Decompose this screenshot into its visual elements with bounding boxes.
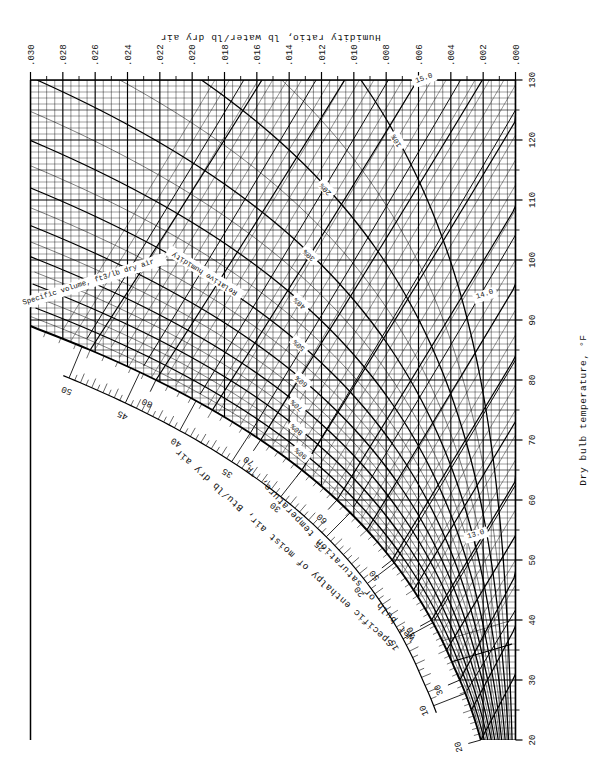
wet-bulb-axis-title: Wet bulb or saturation temperature, °F bbox=[243, 463, 416, 644]
enthalpy-tick-minor bbox=[91, 379, 95, 388]
wet-bulb-tick bbox=[313, 482, 317, 486]
wet-bulb-tick bbox=[101, 356, 103, 361]
wet-bulb-tick bbox=[150, 380, 156, 392]
enthalpy-tick-minor bbox=[290, 497, 296, 505]
enthalpy-hatch-group bbox=[43, 332, 480, 743]
wet-bulb-tick bbox=[378, 548, 382, 552]
wet-bulb-value-label: 30 bbox=[432, 683, 445, 697]
wet-bulb-tick bbox=[405, 590, 413, 595]
wet-bulb-tick bbox=[446, 662, 451, 664]
enthalpy-tick-minor bbox=[421, 673, 430, 677]
enthalpy-tick-minor bbox=[216, 447, 219, 452]
wet-bulb-value-label: 80 bbox=[140, 396, 154, 410]
enthalpy-line bbox=[208, 11, 442, 405]
drybulb-tick-label: 130 bbox=[527, 72, 537, 88]
wet-bulb-tick bbox=[207, 410, 211, 418]
enthalpy-line bbox=[200, 14, 426, 394]
wet-bulb-tick bbox=[381, 560, 391, 568]
wet-bulb-tick bbox=[274, 452, 277, 456]
enthalpy-line bbox=[264, 10, 515, 433]
humidity-tick-label: .008 bbox=[382, 44, 392, 66]
humidity-tick-label: .010 bbox=[350, 44, 360, 66]
wet-bulb-tick bbox=[470, 722, 475, 724]
drybulb-tick-label: 90 bbox=[527, 315, 537, 326]
enthalpy-tick-minor bbox=[108, 390, 110, 395]
humidity-tick-label: .006 bbox=[414, 44, 424, 66]
wet-bulb-tick bbox=[266, 446, 269, 451]
wet-bulb-tick bbox=[449, 668, 454, 670]
relative-humidity-curve-minor bbox=[30, 242, 492, 740]
humidity-tick-label: .002 bbox=[479, 44, 489, 66]
wet-bulb-tick bbox=[429, 626, 434, 629]
enthalpy-tick-minor bbox=[86, 380, 88, 386]
enthalpy-tick-minor bbox=[211, 440, 216, 449]
humidity-tick-label: .024 bbox=[123, 44, 133, 66]
wet-bulb-tick bbox=[86, 350, 90, 358]
enthalpy-value-label: 10 bbox=[417, 704, 430, 718]
enthalpy-tick-minor bbox=[163, 417, 166, 422]
humidity-tick-label: .012 bbox=[317, 44, 327, 66]
enthalpy-tick-minor bbox=[226, 453, 229, 458]
wet-bulb-tick bbox=[452, 674, 457, 676]
wet-bulb-tick bbox=[444, 656, 449, 658]
enthalpy-tick-minor bbox=[334, 539, 341, 546]
wet-bulb-tick bbox=[461, 698, 466, 700]
wet-bulb-tick bbox=[423, 614, 428, 617]
enthalpy-tick-major bbox=[125, 372, 140, 403]
wet-bulb-tick bbox=[373, 542, 377, 546]
drybulb-tick-label: 110 bbox=[527, 192, 537, 208]
enthalpy-tick-minor bbox=[200, 434, 205, 443]
wet-bulb-tick bbox=[432, 632, 437, 635]
wet-bulb-tick bbox=[326, 494, 330, 498]
wet-bulb-tick bbox=[468, 740, 481, 743]
wet-bulb-tick bbox=[419, 608, 424, 611]
wet-bulb-value-label: 50 bbox=[367, 568, 382, 583]
enthalpy-axis-title: Specific enthalpy of moist air, Btu/lb d… bbox=[172, 446, 395, 648]
wet-bulb-tick bbox=[404, 584, 409, 587]
plot-area: 2030405060708090100110120130.000.002.004… bbox=[30, 80, 515, 740]
wet-bulb-tick bbox=[464, 704, 469, 706]
enthalpy-tick-minor bbox=[97, 385, 99, 390]
drybulb-tick-label: 20 bbox=[527, 735, 537, 746]
specific-volume-value-label-group: 13.0 bbox=[463, 527, 489, 544]
drybulb-tick-label: 120 bbox=[527, 132, 537, 148]
enthalpy-value-label: 50 bbox=[60, 383, 74, 396]
wet-bulb-tick bbox=[73, 344, 75, 349]
x-axis-title: Dry bulb temperature, °F bbox=[577, 334, 588, 485]
wet-bulb-tick bbox=[472, 728, 477, 730]
psychrometric-chart-page: 2030405060708090100110120130.000.002.004… bbox=[0, 0, 615, 770]
wet-bulb-tick bbox=[462, 710, 471, 713]
specific-volume-value-label-group: 15.0 bbox=[411, 70, 437, 88]
wet-bulb-tick bbox=[360, 530, 367, 536]
wet-bulb-tick bbox=[239, 428, 242, 433]
enthalpy-tick-minor bbox=[80, 374, 84, 383]
drybulb-tick-label: 80 bbox=[527, 375, 537, 386]
wet-bulb-tick bbox=[400, 578, 405, 581]
enthalpy-line bbox=[353, 235, 515, 507]
wet-bulb-tick bbox=[229, 422, 232, 427]
wet-bulb-tick bbox=[383, 554, 387, 557]
drybulb-tick-label: 30 bbox=[527, 675, 537, 686]
wet-bulb-axis-title-group: Wet bulb or saturation temperature, °F bbox=[243, 463, 416, 644]
humidity-tick-label: .014 bbox=[285, 44, 295, 66]
enthalpy-axis-title-group: Specific enthalpy of moist air, Btu/lb d… bbox=[172, 446, 395, 648]
enthalpy-line bbox=[313, 135, 515, 475]
wet-bulb-tick bbox=[328, 500, 337, 510]
wet-bulb-tick bbox=[290, 464, 293, 468]
specific-volume-family-label-group: Specific volume, ft3/lb dry air bbox=[9, 253, 167, 313]
y-axis-title: Humidity ratio, lb water/lb dry air bbox=[160, 32, 381, 43]
wet-bulb-tick bbox=[199, 404, 202, 409]
wet-bulb-tick bbox=[435, 638, 440, 640]
enthalpy-tick-minor bbox=[415, 660, 424, 664]
enthalpy-tick-minor bbox=[136, 399, 140, 408]
enthalpy-line bbox=[361, 260, 515, 518]
wet-bulb-tick bbox=[351, 518, 355, 522]
drybulb-tick-label: 70 bbox=[527, 435, 537, 446]
wet-bulb-tick bbox=[412, 596, 417, 599]
enthalpy-tick-minor bbox=[359, 567, 367, 573]
humidity-tick-label: .018 bbox=[220, 44, 230, 66]
wet-bulb-tick bbox=[253, 440, 260, 451]
wet-bulb-line bbox=[366, 284, 515, 530]
drybulb-tick-label: 50 bbox=[527, 555, 537, 566]
enthalpy-tick-major bbox=[179, 401, 195, 431]
